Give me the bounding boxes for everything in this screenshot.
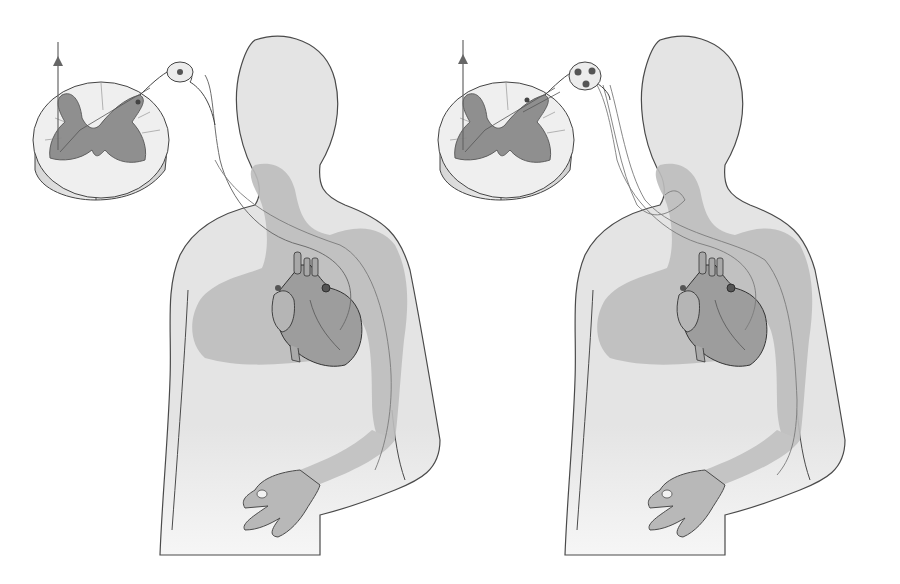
spinal-cord-section: [438, 62, 610, 200]
illustration-right: [405, 0, 855, 584]
illustration-left: [0, 0, 450, 584]
spinal-cord-section: [33, 62, 215, 200]
referred-pain-figure: [0, 0, 900, 584]
panel-right: [405, 0, 855, 584]
panel-left: [0, 0, 450, 584]
